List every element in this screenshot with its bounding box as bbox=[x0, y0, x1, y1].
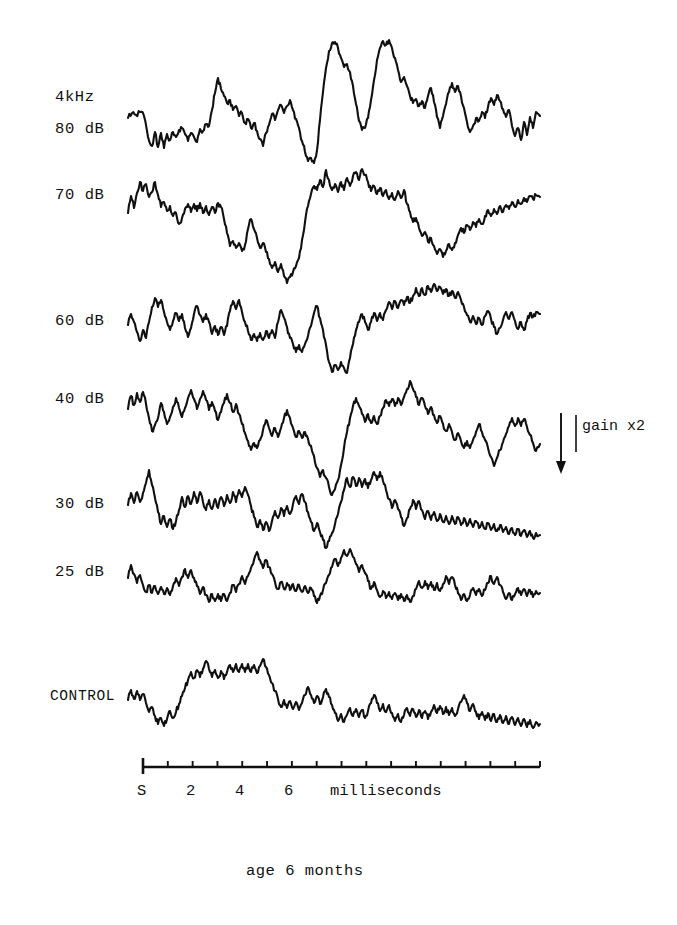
waveform-40-db bbox=[128, 381, 540, 495]
time-axis bbox=[143, 758, 540, 774]
waveform-plot-area bbox=[0, 0, 677, 925]
evoked-response-figure: 4kHz 80 dB 70 dB 60 dB 40 dB 30 dB 25 dB… bbox=[0, 0, 677, 925]
waveform-60-db bbox=[128, 284, 540, 373]
waveform-80-db bbox=[128, 40, 540, 163]
waveform-25-db bbox=[128, 549, 540, 603]
waveform-30-db bbox=[128, 470, 540, 548]
gain-arrow-head bbox=[556, 461, 566, 474]
gain-arrow-group bbox=[556, 413, 576, 474]
waveform-70-db bbox=[128, 169, 540, 283]
waveform-control bbox=[128, 659, 540, 728]
waveform-group bbox=[128, 40, 540, 728]
